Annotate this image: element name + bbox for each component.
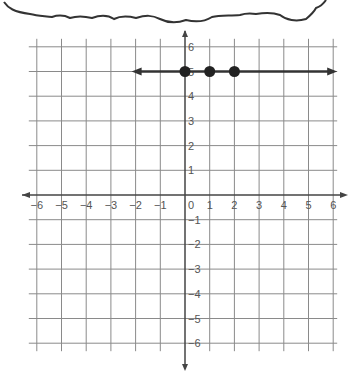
- y-axis-up-arrow-icon: [182, 30, 188, 37]
- data-point: [204, 66, 215, 77]
- data-point: [229, 66, 240, 77]
- x-tick-label: 0: [188, 199, 194, 211]
- y-tick-label: 6: [188, 41, 194, 53]
- x-tick-label: −5: [55, 199, 68, 211]
- y-axis-down-arrow-icon: [182, 364, 188, 371]
- x-tick-label: 4: [281, 199, 287, 211]
- y-tick-label: 4: [188, 90, 194, 102]
- y-tick-label: −5: [188, 313, 201, 325]
- x-tick-label: 2: [231, 199, 237, 211]
- y-tick-label: 2: [188, 140, 194, 152]
- x-tick-label: 6: [330, 199, 336, 211]
- x-tick-label: −4: [80, 199, 93, 211]
- x-tick-label: −2: [129, 199, 142, 211]
- x-tick-label: −3: [105, 199, 118, 211]
- cloud-bubble: [4, 0, 326, 22]
- y-tick-label: −3: [188, 263, 201, 275]
- y-tick-label: −1: [188, 214, 201, 226]
- y-tick-label: −4: [188, 288, 201, 300]
- data-point: [180, 66, 191, 77]
- x-tick-label: 5: [305, 199, 311, 211]
- x-axis-left-arrow-icon: [22, 192, 30, 198]
- line-left-arrow-icon: [132, 68, 142, 76]
- y-tick-label: −2: [188, 238, 201, 250]
- x-tick-label: −1: [154, 199, 167, 211]
- axes: [22, 30, 348, 371]
- y-tick-label: −6: [188, 337, 201, 349]
- x-tick-label: −6: [31, 199, 44, 211]
- x-tick-label: 3: [256, 199, 262, 211]
- y-tick-label: 1: [188, 164, 194, 176]
- line-right-arrow-icon: [327, 68, 337, 76]
- x-tick-label: 1: [207, 199, 213, 211]
- coordinate-plane: −6−5−4−3−2−10123456654321−1−2−3−4−5−6: [0, 0, 349, 373]
- x-axis-right-arrow-icon: [340, 192, 348, 198]
- plotted-line-y-5: [132, 66, 338, 77]
- y-tick-label: 3: [188, 115, 194, 127]
